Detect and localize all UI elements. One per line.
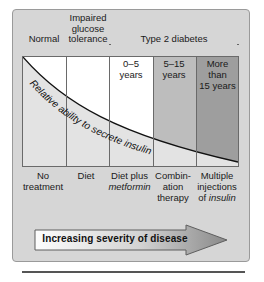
treatment-1-line2: treatment	[20, 181, 66, 192]
duration-0-5-line2: years	[110, 69, 152, 80]
treatment-4-line2: ation	[151, 181, 195, 192]
treatment-2-line1: Diet	[64, 170, 108, 181]
treatment-5-line3: of insulin	[194, 192, 240, 203]
treatment-3-line1: Diet plus	[107, 170, 152, 181]
treatment-5-line2: injections	[194, 181, 240, 192]
duration-more-line2: than	[196, 69, 239, 80]
treatment-5-line1: Multiple	[194, 170, 240, 181]
duration-5-15-line2: years	[153, 69, 195, 80]
treatment-label-diet-plus-metformin: Diet plus metformin	[107, 170, 152, 192]
curve-label-text: Relative ability to secrete insulin	[28, 77, 154, 156]
severity-banner-text: Increasing severity of disease	[40, 233, 190, 244]
duration-0-5-line1: 0–5	[110, 58, 152, 69]
svg-text:Relative ability to secrete in: Relative ability to secrete insulin	[28, 77, 154, 156]
duration-label-0-5-years: 0–5 years	[110, 58, 152, 80]
duration-more-line3: 15 years	[196, 80, 239, 91]
diabetes-progression-figure: Normal Impaired glucose tolerance Type 2…	[0, 0, 264, 282]
treatment-label-combination-therapy: Combin- ation therapy	[151, 170, 195, 203]
stage-header-normal: Normal	[22, 34, 66, 45]
treatment-1-line1: No	[20, 170, 66, 181]
stage-header-impaired-glucose-tolerance: Impaired glucose tolerance	[62, 13, 114, 45]
treatment-4-line3: therapy	[151, 192, 195, 203]
duration-label-more-than-15-years: More than 15 years	[196, 58, 239, 91]
igt-line-1: Impaired	[62, 13, 114, 24]
duration-more-line1: More	[196, 58, 239, 69]
insulin-word: insulin	[209, 192, 236, 203]
treatment-label-no-treatment: No treatment	[20, 170, 66, 192]
treatment-4-line1: Combin-	[151, 170, 195, 181]
igt-line-3: tolerance	[62, 34, 114, 45]
treatment-label-multiple-injections-of-insulin: Multiple injections of insulin	[194, 170, 240, 203]
treatment-label-diet: Diet	[64, 170, 108, 181]
footer-divider	[22, 271, 245, 273]
duration-5-15-line1: 5–15	[153, 58, 195, 69]
treatment-3-line2: metformin	[108, 181, 150, 192]
stage-header-type-2-diabetes: Type 2 diabetes	[109, 34, 239, 46]
type-2-diabetes-label: Type 2 diabetes	[109, 33, 239, 44]
duration-label-5-15-years: 5–15 years	[153, 58, 195, 80]
